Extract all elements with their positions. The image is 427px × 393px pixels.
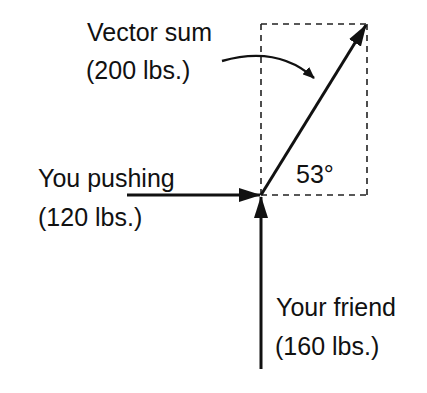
- you-pushing-value: (120 lbs.): [38, 203, 142, 231]
- your-friend-title: Your friend: [276, 293, 396, 321]
- your-friend-value: (160 lbs.): [275, 332, 379, 360]
- vector-sum-title: Vector sum: [87, 18, 212, 46]
- vector-sum-value: (200 lbs.): [86, 56, 190, 84]
- curved-pointer-arrow: [222, 56, 314, 78]
- vector-addition-diagram: Vector sum (200 lbs.) You pushing (120 l…: [0, 0, 427, 393]
- angle-label: 53°: [296, 160, 334, 188]
- you-pushing-title: You pushing: [38, 164, 175, 192]
